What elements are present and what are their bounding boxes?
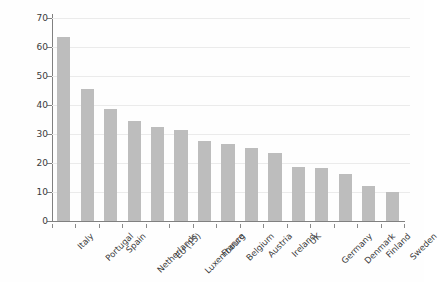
x-axis-label: France xyxy=(219,231,246,258)
y-tick-label: 30 xyxy=(37,129,48,139)
x-tick-mark xyxy=(240,224,241,228)
bar xyxy=(198,141,211,221)
x-tick-mark xyxy=(193,224,194,228)
y-tick-label: 0 xyxy=(42,216,48,226)
x-tick-mark xyxy=(146,224,147,228)
bar xyxy=(315,168,328,221)
bars-layer xyxy=(52,18,404,221)
bar xyxy=(81,89,94,221)
x-tick-mark xyxy=(263,224,264,228)
x-tick-mark xyxy=(216,224,217,228)
bar xyxy=(174,130,187,221)
bar xyxy=(339,174,352,221)
bar xyxy=(104,109,117,221)
bar xyxy=(128,121,141,221)
bar xyxy=(221,144,234,221)
x-axis-label: Italy xyxy=(75,231,95,251)
x-tick-mark xyxy=(169,224,170,228)
x-tick-mark xyxy=(99,224,100,228)
plot-area: 010203040506070 xyxy=(52,18,404,221)
y-tick-label: 20 xyxy=(37,158,48,168)
y-tick-label: 10 xyxy=(37,187,48,197)
x-tick-mark xyxy=(75,224,76,228)
bar xyxy=(292,167,305,221)
bar xyxy=(362,186,375,221)
x-tick-mark xyxy=(334,224,335,228)
x-tick-mark xyxy=(381,224,382,228)
bar xyxy=(386,192,399,221)
x-tick-mark xyxy=(122,224,123,228)
x-tick-mark xyxy=(404,224,405,228)
bar xyxy=(57,37,70,221)
x-tick-mark xyxy=(357,224,358,228)
x-axis-label: Sweden xyxy=(408,231,439,262)
y-tick-label: 70 xyxy=(37,13,48,23)
bar xyxy=(151,127,164,221)
x-tick-mark xyxy=(310,224,311,228)
bar xyxy=(268,153,281,221)
y-tick-label: 60 xyxy=(37,42,48,52)
x-tick-mark xyxy=(287,224,288,228)
bar xyxy=(245,148,258,221)
x-tick-mark xyxy=(52,224,53,228)
y-tick-label: 40 xyxy=(37,100,48,110)
x-axis-labels: ItalyPortugalSpainNetherlandsEU (15)Luxe… xyxy=(52,224,405,282)
x-axis-line xyxy=(52,221,405,222)
y-tick-label: 50 xyxy=(37,71,48,81)
